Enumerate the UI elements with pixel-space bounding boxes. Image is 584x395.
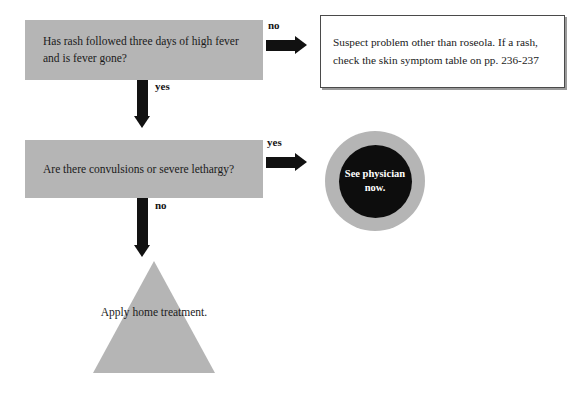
- decision-box-rash-label: Has rash followed three days of high fev…: [43, 33, 249, 66]
- arrow-shaft: [266, 157, 296, 168]
- edge-label-convulsions-yes: yes: [267, 136, 282, 148]
- arrow-right-convulsions-yes: [266, 153, 308, 171]
- edge-label-rash-no: no: [268, 19, 280, 31]
- decision-box-convulsions-label: Are there convulsions or severe lethargy…: [43, 161, 234, 178]
- arrow-down-rash-yes: [134, 80, 151, 128]
- edge-label-rash-yes: yes: [155, 80, 170, 92]
- edge-label-convulsions-no: no: [155, 199, 167, 211]
- outcome-circle-inner: See physician now.: [339, 145, 412, 218]
- decision-box-convulsions[interactable]: Are there convulsions or severe lethargy…: [25, 140, 263, 198]
- arrow-down-convulsions-no: [134, 198, 151, 257]
- outcome-circle-see-physician[interactable]: See physician now.: [325, 131, 425, 231]
- arrow-shaft: [266, 40, 296, 51]
- arrow-head: [295, 36, 307, 54]
- outcome-triangle-home-treatment[interactable]: Apply home treatment.: [93, 261, 215, 373]
- arrow-head: [134, 116, 150, 128]
- arrow-head: [295, 153, 307, 171]
- arrow-right-rash-no: [266, 36, 308, 54]
- outcome-box-suspect-other-label: Suspect problem other than roseola. If a…: [333, 34, 553, 69]
- outcome-triangle-home-treatment-label: Apply home treatment.: [93, 304, 215, 320]
- decision-box-rash[interactable]: Has rash followed three days of high fev…: [25, 20, 263, 80]
- arrow-head: [134, 245, 150, 257]
- arrow-shaft: [137, 198, 148, 246]
- flowchart-canvas: Has rash followed three days of high fev…: [0, 0, 584, 395]
- outcome-circle-see-physician-label: See physician now.: [339, 167, 412, 195]
- arrow-shaft: [137, 80, 148, 117]
- outcome-box-suspect-other[interactable]: Suspect problem other than roseola. If a…: [320, 15, 565, 88]
